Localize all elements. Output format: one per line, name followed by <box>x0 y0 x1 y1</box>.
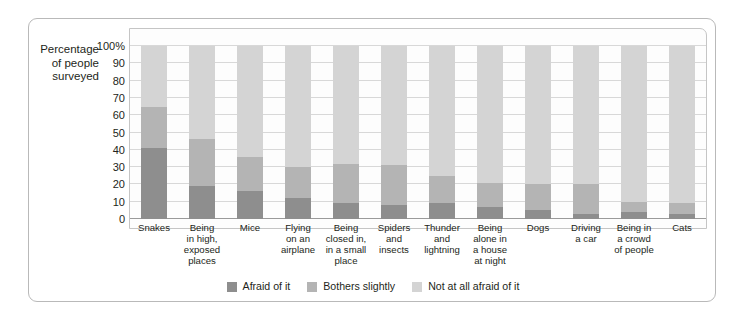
x-axis-label: Dogs <box>514 222 562 233</box>
bar-segment <box>669 203 696 213</box>
legend-item[interactable]: Bothers slightly <box>307 281 395 292</box>
y-axis-tick-label: 60 <box>85 110 125 121</box>
y-axis-tick-label: 90 <box>85 58 125 69</box>
bar-segment <box>285 167 312 198</box>
bar-segment <box>141 46 168 107</box>
bar-segment <box>621 46 648 202</box>
bar-segment <box>333 46 360 164</box>
x-axis-label: Spidersandinsects <box>370 222 418 255</box>
bar-segment <box>525 210 552 219</box>
bar-column <box>237 46 264 219</box>
bar-segment <box>237 191 264 219</box>
bar-segment <box>477 183 504 207</box>
x-axis-label-line: at night <box>466 255 514 266</box>
x-axis-label-line: in high, <box>178 233 226 244</box>
legend-label: Not at all afraid of it <box>428 281 519 292</box>
bar-segment <box>381 165 408 205</box>
x-axis-label-line: Being <box>178 222 226 233</box>
x-axis-label-line: Driving <box>562 222 610 233</box>
bar-segment <box>381 46 408 165</box>
bar-segment <box>669 46 696 203</box>
x-axis-label-line: Being <box>466 222 514 233</box>
bar-column <box>381 46 408 219</box>
bar-segment <box>285 46 312 167</box>
bar-segment <box>333 164 360 204</box>
chart-figure: Percentage of people surveyed 0102030405… <box>28 18 716 302</box>
bar-segment <box>429 203 456 219</box>
x-axis-label: Being ina crowdof people <box>610 222 658 255</box>
x-axis-label-line: lightning <box>418 244 466 255</box>
y-axis-tick-label: 80 <box>85 75 125 86</box>
x-axis-label: Snakes <box>130 222 178 233</box>
bar-segment <box>477 207 504 219</box>
bar-column <box>141 46 168 219</box>
y-axis-tick-label: 40 <box>85 144 125 155</box>
y-axis-tick-label: 30 <box>85 162 125 173</box>
bar-column <box>477 46 504 219</box>
x-axis-label: Mice <box>226 222 274 233</box>
y-axis-tick-label: 100% <box>85 41 125 52</box>
y-axis-tick-labels: 0102030405060708090100% <box>85 19 125 303</box>
bar-segment <box>237 46 264 157</box>
x-axis-label-line: place <box>322 255 370 266</box>
x-axis-label: Beingin high,exposedplaces <box>178 222 226 266</box>
legend-item[interactable]: Not at all afraid of it <box>412 281 519 292</box>
x-axis-label-line: Flying <box>274 222 322 233</box>
x-axis-label: Beingalone ina houseat night <box>466 222 514 266</box>
x-axis-label-line: exposed <box>178 244 226 255</box>
x-axis-label-line: of people <box>610 244 658 255</box>
x-axis-label-line: Thunder <box>418 222 466 233</box>
bar-column <box>189 46 216 219</box>
y-axis-tick-label: 0 <box>85 214 125 225</box>
y-axis-tick-label: 50 <box>85 127 125 138</box>
legend-swatch-icon <box>227 282 237 292</box>
x-axis-label: Drivinga car <box>562 222 610 244</box>
bar-segment <box>333 203 360 219</box>
plot-area <box>130 46 706 219</box>
legend-label: Afraid of it <box>243 281 291 292</box>
x-axis-category-labels: SnakesBeingin high,exposedplacesMiceFlyi… <box>130 222 706 278</box>
bar-segment <box>237 157 264 192</box>
bar-segment <box>429 176 456 204</box>
x-axis-label: Beingclosed in,in a smallplace <box>322 222 370 266</box>
bar-segment <box>525 184 552 210</box>
legend-swatch-icon <box>412 282 422 292</box>
bar-segment <box>477 46 504 183</box>
bar-segment <box>573 46 600 184</box>
bar-segment <box>285 198 312 219</box>
legend-item[interactable]: Afraid of it <box>227 281 291 292</box>
bar-segment <box>669 214 696 219</box>
legend-label: Bothers slightly <box>323 281 395 292</box>
x-axis-label: Cats <box>658 222 706 233</box>
x-axis-label-line: Being <box>322 222 370 233</box>
x-axis-label: Thunderandlightning <box>418 222 466 255</box>
x-axis-label-line: in a small <box>322 244 370 255</box>
y-axis-tick-label: 20 <box>85 179 125 190</box>
bar-segment <box>621 202 648 212</box>
bar-segment <box>189 139 216 186</box>
bar-column <box>429 46 456 219</box>
bar-column <box>573 46 600 219</box>
x-axis-label-line: alone in <box>466 233 514 244</box>
bar-segment <box>189 186 216 219</box>
bar-column <box>669 46 696 219</box>
bar-segment <box>141 148 168 219</box>
bar-segment <box>573 184 600 213</box>
bar-segment <box>381 205 408 219</box>
x-axis-label-line: a house <box>466 244 514 255</box>
bar-segment <box>141 107 168 149</box>
x-axis-label-line: Spiders <box>370 222 418 233</box>
x-axis-label-line: insects <box>370 244 418 255</box>
bar-segment <box>621 212 648 219</box>
bar-segment <box>573 214 600 219</box>
x-axis-label-line: a car <box>562 233 610 244</box>
bar-segment <box>189 46 216 139</box>
bar-segment <box>429 46 456 176</box>
bar-column <box>285 46 312 219</box>
x-axis-label-line: and <box>418 233 466 244</box>
x-axis-label-line: and <box>370 233 418 244</box>
x-axis-label-line: on an <box>274 233 322 244</box>
x-axis-label-line: Dogs <box>514 222 562 233</box>
x-axis-label: Flyingon anairplane <box>274 222 322 255</box>
y-axis-tick-label: 10 <box>85 196 125 207</box>
